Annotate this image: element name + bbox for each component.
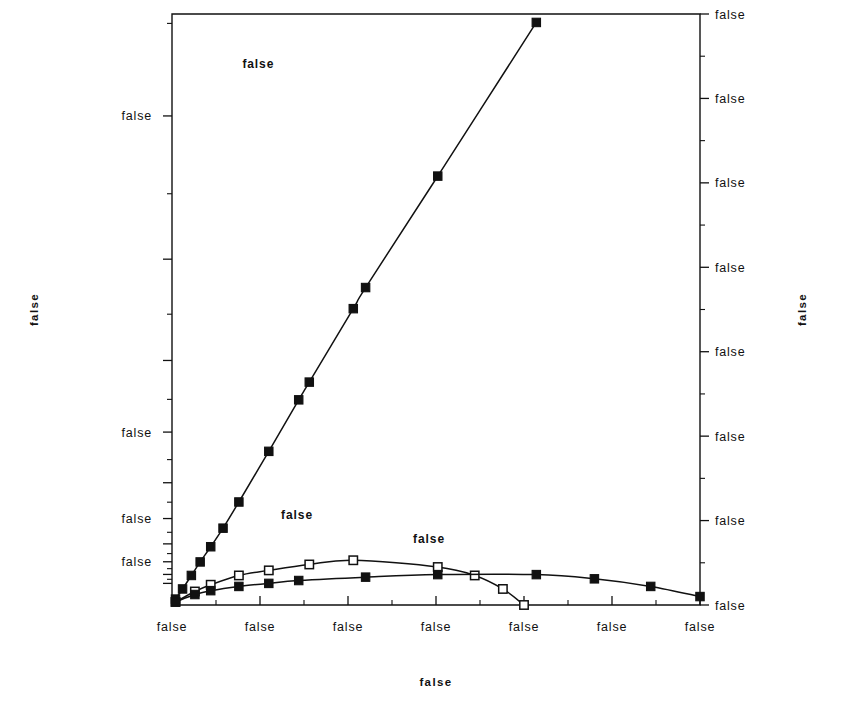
svg-text:false: false bbox=[715, 176, 745, 190]
svg-text:false: false bbox=[715, 430, 745, 444]
svg-text:false: false bbox=[122, 109, 152, 123]
svg-text:false: false bbox=[715, 345, 745, 359]
svg-text:false: false bbox=[509, 620, 539, 634]
svg-text:false: false bbox=[715, 599, 745, 613]
chart-svg: falsefalsefalsefalsefalsefalsefalsefalse… bbox=[0, 0, 842, 709]
svg-text:false: false bbox=[715, 92, 745, 106]
svg-text:false: false bbox=[715, 514, 745, 528]
svg-text:false: false bbox=[421, 620, 451, 634]
svg-text:false: false bbox=[413, 532, 445, 546]
svg-text:false: false bbox=[715, 8, 745, 22]
svg-text:false: false bbox=[419, 676, 452, 688]
svg-text:false: false bbox=[597, 620, 627, 634]
svg-text:false: false bbox=[685, 620, 715, 634]
svg-text:false: false bbox=[242, 57, 274, 71]
svg-text:false: false bbox=[122, 512, 152, 526]
svg-text:false: false bbox=[333, 620, 363, 634]
svg-text:false: false bbox=[796, 293, 808, 326]
svg-text:false: false bbox=[122, 426, 152, 440]
svg-text:false: false bbox=[122, 555, 152, 569]
svg-text:false: false bbox=[245, 620, 275, 634]
chart-figure: falsefalsefalsefalsefalsefalsefalsefalse… bbox=[0, 0, 842, 709]
svg-text:false: false bbox=[715, 261, 745, 275]
svg-text:false: false bbox=[157, 620, 187, 634]
svg-text:false: false bbox=[28, 293, 40, 326]
svg-text:false: false bbox=[281, 508, 313, 522]
